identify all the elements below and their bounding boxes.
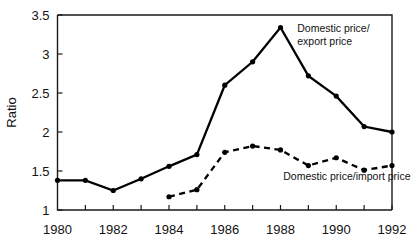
- data-point-s0-1988: [278, 25, 283, 30]
- y-tick-label-2: 2: [42, 125, 49, 140]
- x-tick-label-1990: 1990: [322, 222, 351, 237]
- series-line-0: [58, 27, 393, 190]
- x-axis-tick-labels: 1980198219841986198819901992: [43, 222, 406, 237]
- y-tick-label-1: 1: [42, 203, 49, 218]
- annot-export-line-1: export price: [297, 35, 352, 47]
- data-point-s1-1989: [306, 163, 311, 168]
- x-tick-label-1992: 1992: [378, 222, 407, 237]
- y-tick-label-3: 3: [42, 47, 49, 62]
- data-point-s0-1989: [306, 73, 311, 78]
- data-point-s0-1992: [389, 129, 394, 134]
- x-tick-label-1986: 1986: [210, 222, 239, 237]
- data-point-s0-1987: [250, 59, 255, 64]
- data-point-s0-1991: [362, 124, 367, 129]
- data-point-s0-1983: [139, 176, 144, 181]
- data-point-s1-1985: [194, 187, 199, 192]
- y-axis-tick-labels: 11.522.533.5: [31, 8, 49, 218]
- y-tick-label-3.5: 3.5: [31, 8, 49, 23]
- annot-import-line-0: Domestic price/import price: [283, 170, 410, 182]
- x-tick-label-1980: 1980: [43, 222, 72, 237]
- x-tick-label-1984: 1984: [155, 222, 184, 237]
- x-tick-label-1982: 1982: [99, 222, 128, 237]
- annot-export-line-0: Domestic price/: [297, 22, 369, 34]
- data-point-s1-1984: [166, 194, 171, 199]
- data-point-s0-1990: [334, 94, 339, 99]
- line-chart: 11.522.533.5 198019821984198619881990199…: [0, 0, 417, 250]
- data-point-s0-1984: [166, 164, 171, 169]
- data-point-s0-1986: [222, 83, 227, 88]
- y-axis-title: Ratio: [4, 97, 19, 127]
- data-point-s1-1992: [389, 163, 394, 168]
- data-point-s0-1981: [83, 178, 88, 183]
- annot-import: Domestic price/import price: [283, 170, 410, 182]
- x-tick-label-1988: 1988: [266, 222, 295, 237]
- data-point-s0-1982: [111, 188, 116, 193]
- data-point-s0-1980: [55, 178, 60, 183]
- data-point-s1-1986: [222, 150, 227, 155]
- data-point-s1-1987: [250, 143, 255, 148]
- data-point-s1-1990: [334, 155, 339, 160]
- data-point-s1-1988: [278, 147, 283, 152]
- chart-figure: 11.522.533.5 198019821984198619881990199…: [0, 0, 417, 250]
- annot-export: Domestic price/export price: [297, 22, 369, 47]
- data-point-s0-1985: [194, 152, 199, 157]
- y-tick-label-2.5: 2.5: [31, 86, 49, 101]
- y-tick-label-1.5: 1.5: [31, 164, 49, 179]
